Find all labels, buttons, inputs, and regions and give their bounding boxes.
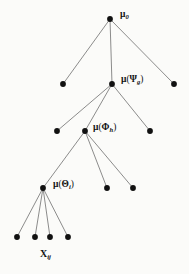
node-label-level2-subscript: g — [137, 78, 140, 85]
tree-node — [47, 234, 53, 240]
tree-node — [60, 81, 66, 87]
tree-edge — [85, 131, 133, 188]
tree-node — [171, 81, 177, 87]
tree-node — [40, 185, 46, 191]
tree-node — [104, 185, 110, 191]
tree-edge — [85, 131, 107, 188]
node-label-root-subscript: 0 — [125, 13, 128, 20]
tree-node — [14, 234, 20, 240]
node-label-level4: μ(Θi) — [53, 180, 74, 190]
tree-edge — [112, 84, 150, 131]
tree-diagram-figure: μ0 μ(Ψg) μ(Φh) μ(Θi) Xij — [0, 0, 189, 274]
tree-edge — [110, 19, 112, 84]
leaf-label-subscript: ij — [47, 253, 51, 260]
node-label-level3-subscript: h — [109, 126, 113, 133]
node-label-level3: μ(Φh) — [93, 123, 116, 133]
node-label-level2: μ(Ψg) — [121, 75, 143, 85]
tree-node — [109, 81, 115, 87]
tree-graph — [0, 0, 189, 274]
tree-node — [82, 128, 88, 134]
tree-edge — [63, 19, 110, 84]
tree-node — [130, 185, 136, 191]
tree-node — [65, 234, 71, 240]
tree-node — [107, 16, 113, 22]
node-label-level4-subscript: i — [69, 183, 71, 190]
leaf-label-observations: Xij — [40, 249, 51, 259]
tree-node — [54, 128, 60, 134]
tree-node — [32, 234, 38, 240]
node-label-root: μ0 — [120, 10, 129, 20]
tree-node — [147, 128, 153, 134]
